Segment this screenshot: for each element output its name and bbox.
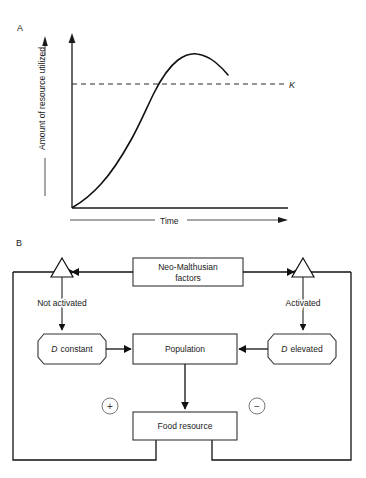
panel-b-diagram: Neo-Malthusian factors Not activated Act… [0,0,366,478]
negative-sign-label: − [254,401,260,412]
positive-sign-label: + [107,401,113,412]
edge-label-activated: Activated [286,298,321,308]
node-d-constant-symbol: D [51,344,57,354]
node-d-constant-word: constant [61,344,94,354]
node-neo-malthusian-factors-label-line2: factors [175,273,201,283]
junction-left-triangle[interactable] [51,258,73,277]
edge-label-not-activated: Not activated [37,298,87,308]
node-d-elevated-word: elevated [291,344,323,354]
node-food-resource-label: Food resource [158,421,213,431]
figure-container: A B K Amount of resource utilized Time [0,0,366,478]
node-population-label: Population [165,344,205,354]
junction-right-triangle[interactable] [292,258,314,277]
node-neo-malthusian-factors-label-line1: Neo-Malthusian [158,262,218,272]
node-d-elevated-symbol: D [281,344,287,354]
